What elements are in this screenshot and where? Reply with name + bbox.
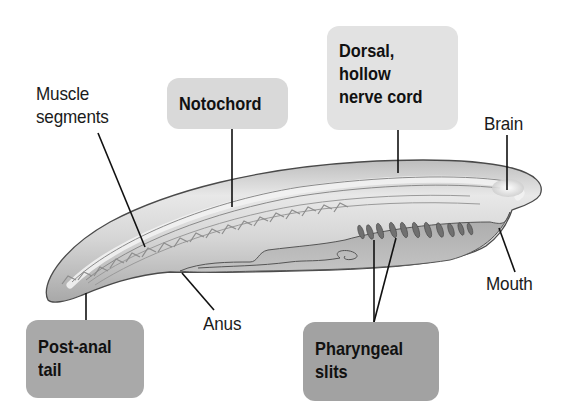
- leader-mouth: [499, 228, 515, 272]
- dorsal-nerve-cord-line-2: hollow: [339, 62, 391, 85]
- pharyngeal-slits-line-2: slits: [315, 360, 348, 383]
- dorsal-nerve-cord-line-1: Dorsal,: [339, 39, 394, 62]
- anus-label: Anus: [203, 312, 241, 335]
- body: [46, 160, 541, 302]
- notochord-text: Notochord: [179, 92, 262, 115]
- chordate-diagram: Muscle segments Brain Mouth Anus Notocho…: [0, 0, 572, 417]
- dorsal-nerve-cord-label-box: Dorsal, hollow nerve cord: [327, 26, 458, 130]
- pharyngeal-slits-label-box: Pharyngeal slits: [303, 322, 439, 401]
- post-anal-tail-label-box: Post-anal tail: [26, 320, 144, 398]
- notochord-label-box: Notochord: [167, 78, 288, 129]
- muscle-segments-label: Muscle segments: [36, 82, 109, 128]
- muscle-segments-line-2: segments: [36, 105, 109, 128]
- dorsal-nerve-cord-line-3: nerve cord: [339, 85, 423, 108]
- pharyngeal-slits-line-1: Pharyngeal: [315, 337, 403, 360]
- post-anal-tail-line-1: Post-anal: [38, 335, 112, 358]
- muscle-segments-line-1: Muscle: [36, 82, 109, 105]
- post-anal-tail-line-2: tail: [38, 358, 62, 381]
- mouth-label: Mouth: [486, 272, 533, 295]
- leader-anus: [182, 273, 214, 310]
- brain-label: Brain: [484, 112, 523, 135]
